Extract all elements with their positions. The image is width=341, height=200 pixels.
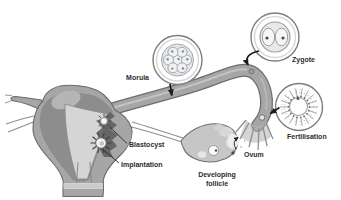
zygote-pronucleus-right (281, 36, 284, 39)
cervix-band (64, 184, 104, 188)
zygote-label: Zygote (292, 56, 315, 64)
diagram-canvas: Morula Zygote Fertilisation Ovum Develop… (0, 0, 341, 200)
ovarian-ligament-lines (131, 122, 183, 142)
fertilisation-site-dot (259, 115, 265, 121)
follicle-oocyte-dot (215, 149, 218, 152)
fertilisation-implantation-diagram: Morula Zygote Fertilisation Ovum Develop… (0, 0, 341, 200)
developing-follicle-label-line2: follicle (206, 180, 228, 187)
blastocyst-label: Blastocyst (129, 141, 165, 149)
fertilisation-inset (271, 84, 323, 131)
ovum-label: Ovum (244, 151, 264, 158)
zygote-cell-right (275, 28, 287, 46)
morula-label: Morula (126, 74, 149, 81)
ovary-light-patch-2 (214, 124, 224, 131)
zygote-pronucleus-left (265, 36, 268, 39)
penetrating-sperm-dot (297, 97, 300, 100)
fertilisation-label: Fertilisation (287, 133, 327, 140)
left-ligament-lines (6, 116, 36, 132)
developing-follicle-label-line1: Developing (198, 171, 236, 179)
ovarian-ligament (131, 122, 183, 142)
fertilisation-ovum (290, 98, 308, 116)
small-follicle (198, 151, 206, 157)
zygote-site-dot (249, 69, 254, 74)
blastocyst-marker (101, 118, 108, 125)
speck-2 (244, 140, 245, 141)
zygote-cell-left (262, 28, 274, 46)
implantation-label: Implantation (121, 161, 163, 169)
implantation-inner-mass (100, 141, 104, 145)
ovary (181, 124, 245, 162)
speck-1 (240, 146, 242, 148)
